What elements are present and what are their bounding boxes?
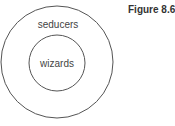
venn-diagram (0, 0, 175, 126)
outer-set-label: seducers (38, 19, 79, 30)
figure-label: Figure 8.6 (128, 4, 175, 15)
inner-set-label: wizards (40, 58, 74, 69)
